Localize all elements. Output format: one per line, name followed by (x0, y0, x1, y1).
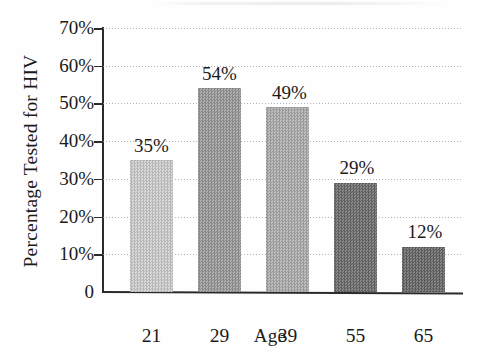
y-tick-50 (94, 103, 103, 105)
y-axis-tick-labels: 70% 60% 50% 40% 30% 20% 10% 0 (0, 28, 94, 292)
y-tick-70 (94, 28, 103, 30)
bar-39 (266, 107, 309, 292)
y-tick-10 (94, 254, 103, 256)
bar-value-65: 12% (408, 221, 443, 243)
y-tick-label-10: 10% (59, 243, 94, 265)
bar-65 (402, 247, 445, 292)
bar-value-29: 54% (202, 63, 237, 85)
y-tick-label-30: 30% (59, 168, 94, 190)
gridline-60 (103, 66, 463, 67)
x-tick-label-21: 21 (142, 325, 162, 347)
y-tick-40 (94, 141, 103, 143)
scan-artifact (150, 2, 450, 5)
y-tick-label-0: 0 (85, 281, 95, 303)
bar-29 (198, 88, 241, 292)
bar-value-39: 49% (272, 82, 307, 104)
bar-21 (130, 160, 173, 292)
bar-value-55: 29% (340, 157, 375, 179)
y-tick-label-40: 40% (59, 130, 94, 152)
y-tick-label-50: 50% (59, 92, 94, 114)
x-axis-title: Age (170, 325, 370, 347)
y-tick-label-20: 20% (59, 206, 94, 228)
x-tick-label-65: 65 (414, 325, 434, 347)
bar-55 (334, 183, 377, 292)
bar-chart: Percentage Tested for HIV 70% 60% 50% 40… (0, 0, 477, 353)
plot-area: 35% 54% 49% 29% 12% 21 29 39 55 65 (103, 28, 463, 292)
y-tick-30 (94, 179, 103, 181)
y-tick-20 (94, 217, 103, 219)
bar-value-21: 35% (134, 135, 169, 157)
y-tick-label-60: 60% (59, 55, 94, 77)
y-tick-60 (94, 66, 103, 68)
y-tick-label-70: 70% (59, 17, 94, 39)
gridline-70 (103, 28, 463, 29)
